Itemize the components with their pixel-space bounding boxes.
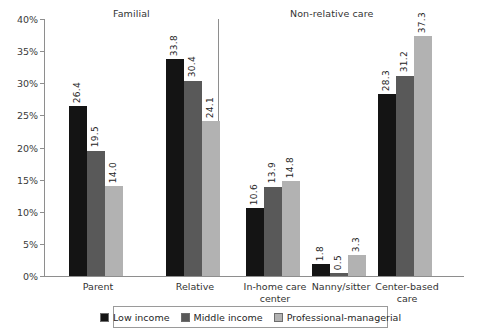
bar-group-parent: 26.419.514.0 xyxy=(69,19,123,276)
bar-value-label: 28.3 xyxy=(382,70,391,91)
bar-group-relative: 33.830.424.1 xyxy=(166,19,220,276)
y-tick-label: 10% xyxy=(17,206,38,217)
bar-value-label: 14.8 xyxy=(286,157,295,178)
bar-nanny-sitter-series-0: 1.8 xyxy=(312,264,330,276)
bar-value-label: 24.1 xyxy=(206,97,215,118)
bar-nanny-sitter-series-1: 0.5 xyxy=(330,273,348,276)
bar-in-home-care-center-series-2: 14.8 xyxy=(282,181,300,276)
bar-nanny-sitter-series-2: 3.3 xyxy=(348,255,366,276)
y-tick-mark xyxy=(40,244,44,245)
y-tick-label: 0% xyxy=(23,271,38,282)
chart-legend: Low incomeMiddle incomeProfessional-mana… xyxy=(113,306,388,328)
y-tick-label: 40% xyxy=(17,14,38,25)
bar-relative-series-1: 30.4 xyxy=(184,81,202,276)
bar-value-label: 10.6 xyxy=(250,184,259,205)
bar-group-center-based-care: 28.331.237.3 xyxy=(378,19,432,276)
y-tick-label: 15% xyxy=(17,174,38,185)
bar-value-label: 1.8 xyxy=(316,246,325,261)
y-tick-label: 30% xyxy=(17,78,38,89)
legend-item-1[interactable]: Middle income xyxy=(181,312,263,323)
plot-area: 40%35%30%25%20%15%10%5%0% 26.419.514.033… xyxy=(44,19,464,276)
bar-in-home-care-center-series-1: 13.9 xyxy=(264,187,282,276)
legend-label: Professional-managerial xyxy=(287,312,401,323)
bar-value-label: 30.4 xyxy=(188,56,197,77)
bar-value-label: 31.2 xyxy=(400,51,409,72)
y-tick-mark xyxy=(40,115,44,116)
bar-center-based-care-series-2: 37.3 xyxy=(414,36,432,276)
x-label-parent: Parent xyxy=(53,281,143,293)
y-tick-mark xyxy=(40,180,44,181)
y-tick-label: 20% xyxy=(17,142,38,153)
legend-item-0[interactable]: Low income xyxy=(100,312,170,323)
bar-value-label: 13.9 xyxy=(268,162,277,183)
legend-swatch-icon xyxy=(274,313,283,322)
bar-relative-series-0: 33.8 xyxy=(166,59,184,276)
y-tick-label: 25% xyxy=(17,110,38,121)
y-tick-mark xyxy=(40,51,44,52)
legend-label: Low income xyxy=(113,312,170,323)
bar-group-nanny-sitter: 1.80.53.3 xyxy=(312,19,366,276)
y-tick-mark xyxy=(40,19,44,20)
panel-title-familial: Familial xyxy=(113,8,150,19)
bar-parent-series-2: 14.0 xyxy=(105,186,123,276)
grouped-bar-chart: Familial Non-relative care 40%35%30%25%2… xyxy=(0,0,478,336)
bar-parent-series-1: 19.5 xyxy=(87,151,105,276)
legend-swatch-icon xyxy=(100,313,109,322)
y-tick-label: 35% xyxy=(17,46,38,57)
bar-center-based-care-series-0: 28.3 xyxy=(378,94,396,276)
bar-value-label: 14.0 xyxy=(109,162,118,183)
bar-value-label: 26.4 xyxy=(73,82,82,103)
y-tick-label: 5% xyxy=(23,238,38,249)
bar-in-home-care-center-series-0: 10.6 xyxy=(246,208,264,276)
y-tick-mark xyxy=(40,212,44,213)
bar-parent-series-0: 26.4 xyxy=(69,106,87,276)
bar-relative-series-2: 24.1 xyxy=(202,121,220,276)
bar-value-label: 0.5 xyxy=(334,255,343,270)
x-label-center-based-care: Center-based care xyxy=(362,281,452,305)
legend-item-2[interactable]: Professional-managerial xyxy=(274,312,401,323)
x-label-relative: Relative xyxy=(150,281,240,293)
bar-value-label: 19.5 xyxy=(91,126,100,147)
y-tick-mark xyxy=(40,148,44,149)
legend-swatch-icon xyxy=(181,313,190,322)
y-axis-line xyxy=(44,19,45,276)
bar-value-label: 33.8 xyxy=(170,35,179,56)
bar-group-in-home-care-center: 10.613.914.8 xyxy=(246,19,300,276)
x-axis-line xyxy=(44,276,464,277)
panel-title-nonrelative: Non-relative care xyxy=(290,8,374,19)
y-tick-mark xyxy=(40,83,44,84)
bar-center-based-care-series-1: 31.2 xyxy=(396,76,414,276)
y-tick-mark xyxy=(40,276,44,277)
bar-value-label: 3.3 xyxy=(352,237,361,252)
bar-value-label: 37.3 xyxy=(418,12,427,33)
legend-label: Middle income xyxy=(194,312,263,323)
